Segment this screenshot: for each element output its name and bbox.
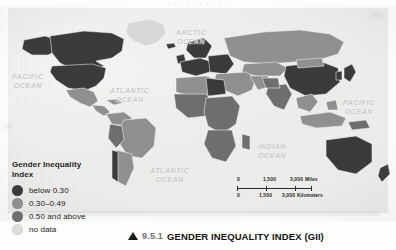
- region-madagascar: [242, 134, 250, 150]
- region-libya-egypt: [206, 78, 226, 96]
- region-australia: [326, 136, 372, 174]
- ocean-label-indian: INDIAN OCEAN: [258, 142, 286, 160]
- scale-miles-unit: Miles: [305, 176, 318, 182]
- figure-page: · · · · · · · · · ·: [0, 0, 396, 250]
- legend-item-label: no data: [29, 225, 56, 234]
- scale-miles-labels: 0 1,500 3,000 Miles: [237, 176, 323, 185]
- region-indonesia: [300, 112, 346, 128]
- figure-number: 9.5.1: [142, 231, 163, 241]
- figure-title: GENDER INEQUALITY INDEX (GII): [167, 231, 324, 242]
- region-united-states: [50, 64, 106, 91]
- legend-swatch-icon: [12, 198, 23, 209]
- legend-item-no-data[interactable]: no data: [12, 223, 124, 236]
- region-eastern-europe: [208, 54, 234, 74]
- legend-item-030-049[interactable]: 0.30–0.49: [12, 197, 124, 210]
- scale-bar-line: [237, 188, 311, 189]
- scale-tick: [266, 186, 267, 191]
- scale-km-mid: 1,500: [259, 192, 272, 198]
- scale-bar-graphic: [237, 186, 323, 191]
- legend-item-label: below 0.30: [29, 186, 69, 195]
- region-mexico: [66, 88, 98, 107]
- scale-kilometers-labels: 0 1,500 3,000 Kilometers: [237, 192, 323, 201]
- region-southeast-asia: [296, 94, 318, 112]
- ocean-label-pacific-west: PACIFIC OCEAN: [12, 72, 44, 90]
- ocean-label-atlantic-south: ATLANTIC OCEAN: [150, 166, 189, 184]
- legend-title-line2: Index: [12, 170, 124, 180]
- region-korea: [336, 71, 342, 80]
- legend-swatch-icon: [12, 185, 23, 196]
- scale-tick: [237, 186, 238, 191]
- region-papua-new-guinea: [348, 120, 370, 130]
- scale-tick: [295, 186, 296, 191]
- region-japan: [344, 64, 356, 82]
- scale-km-unit: Kilometers: [297, 192, 323, 198]
- map-legend: Gender Inequality Index below 0.30 0.30–…: [12, 160, 124, 236]
- legend-swatch-icon: [12, 211, 23, 222]
- legend-item-label: 0.30–0.49: [29, 199, 66, 208]
- ocean-label-atlantic-north: ATLANTIC OCEAN: [110, 86, 149, 104]
- ocean-label-arctic: ARCTIC OCEAN: [176, 28, 206, 46]
- ocean-label-pacific-east: PACIFIC OCEAN: [343, 98, 375, 116]
- region-russia: [224, 30, 344, 64]
- region-philippines: [326, 100, 338, 110]
- legend-item-label: 0.50 and above: [29, 212, 86, 221]
- legend-item-050-and-above[interactable]: 0.50 and above: [12, 210, 124, 223]
- scale-km-zero: 0: [237, 192, 240, 198]
- triangle-up-icon: [128, 232, 138, 240]
- map-scale-bar: 0 1,500 3,000 Miles 0 1,500 3,000 Kilome…: [237, 176, 323, 201]
- scale-km-max: 3,000: [282, 192, 295, 198]
- scale-miles-max: 3,000: [290, 176, 303, 182]
- figure-caption: 9.5.1 GENDER INEQUALITY INDEX (GII): [128, 228, 390, 244]
- scale-miles-zero: 0: [237, 176, 240, 182]
- scale-tick: [311, 186, 312, 191]
- region-mongolia: [296, 58, 324, 68]
- legend-swatch-icon: [12, 224, 23, 235]
- region-new-zealand: [378, 164, 390, 182]
- region-greenland: [126, 19, 166, 46]
- legend-item-below-030[interactable]: below 0.30: [12, 184, 124, 197]
- region-iceland: [166, 43, 176, 49]
- legend-title: Gender Inequality Index: [12, 160, 124, 180]
- legend-title-line1: Gender Inequality: [12, 160, 124, 170]
- region-central-east-africa: [204, 96, 240, 134]
- region-southern-africa: [204, 130, 236, 162]
- scale-miles-mid: 1,500: [263, 176, 276, 182]
